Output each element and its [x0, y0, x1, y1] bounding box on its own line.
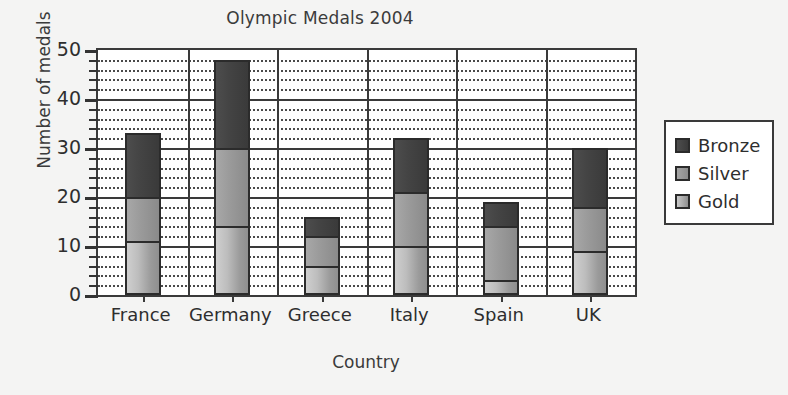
y-tick-minor	[89, 168, 98, 170]
bar-segment-silver[interactable]	[572, 207, 608, 251]
y-tick-minor	[89, 236, 98, 238]
y-tick-minor	[89, 226, 98, 228]
x-tick-mark	[232, 295, 234, 302]
bar-segment-gold[interactable]	[304, 266, 340, 295]
x-tick-mark	[143, 295, 145, 302]
category-separator	[456, 50, 458, 295]
y-tick-minor	[89, 207, 98, 209]
y-tick-minor	[89, 89, 98, 91]
silver-swatch-icon	[675, 166, 690, 181]
y-tick-minor	[89, 177, 98, 179]
x-tick-label-greece: Greece	[288, 304, 352, 325]
y-tick-minor	[89, 128, 98, 130]
x-axis-label: Country	[95, 352, 637, 372]
x-tick-label-germany: Germany	[189, 304, 272, 325]
legend-item-bronze[interactable]: Bronze	[675, 135, 760, 156]
x-tick-label-spain: Spain	[474, 304, 524, 325]
x-tick-label-italy: Italy	[390, 304, 429, 325]
bar-segment-bronze[interactable]	[393, 138, 429, 192]
y-tick-minor	[89, 266, 98, 268]
y-tick-minor	[89, 256, 98, 258]
x-tick-label-uk: UK	[576, 304, 601, 325]
category-separator	[546, 50, 548, 295]
bar-germany[interactable]	[214, 60, 250, 295]
legend-item-silver[interactable]: Silver	[675, 163, 760, 184]
y-tick-minor	[89, 285, 98, 287]
x-tick-label-france: France	[111, 304, 171, 325]
y-tick-minor	[89, 119, 98, 121]
category-separator	[277, 50, 279, 295]
x-tick-mark	[411, 295, 413, 302]
bar-segment-silver[interactable]	[304, 236, 340, 265]
bar-segment-gold[interactable]	[483, 280, 519, 295]
bar-segment-gold[interactable]	[214, 226, 250, 295]
y-tick-major	[85, 197, 98, 200]
y-tick-minor	[89, 187, 98, 189]
bronze-swatch-icon	[675, 138, 690, 153]
chart-canvas: Olympic Medals 2004 Number of medals 010…	[0, 0, 788, 395]
legend: BronzeSilverGold	[664, 120, 774, 225]
y-axis-label: Number of medals	[34, 0, 54, 210]
x-tick-mark	[322, 295, 324, 302]
y-tick-minor	[89, 275, 98, 277]
y-tick-label: 0	[69, 283, 81, 305]
bar-segment-gold[interactable]	[393, 246, 429, 295]
legend-label: Gold	[698, 191, 739, 212]
bar-segment-gold[interactable]	[572, 251, 608, 295]
legend-item-gold[interactable]: Gold	[675, 191, 760, 212]
y-tick-label: 10	[57, 234, 81, 256]
bar-segment-bronze[interactable]	[572, 148, 608, 207]
y-tick-minor	[89, 109, 98, 111]
bar-greece[interactable]	[304, 217, 340, 295]
y-tick-label: 40	[57, 87, 81, 109]
y-tick-minor	[89, 70, 98, 72]
y-tick-major	[85, 50, 98, 53]
bar-uk[interactable]	[572, 148, 608, 295]
y-tick-label: 30	[57, 136, 81, 158]
bar-segment-gold[interactable]	[125, 241, 161, 295]
bar-spain[interactable]	[483, 202, 519, 295]
y-tick-minor	[89, 79, 98, 81]
y-tick-minor	[89, 138, 98, 140]
category-separator	[188, 50, 190, 295]
y-tick-major	[85, 295, 98, 298]
bar-segment-bronze[interactable]	[125, 133, 161, 197]
y-tick-minor	[89, 158, 98, 160]
y-tick-minor	[89, 217, 98, 219]
x-tick-mark	[501, 295, 503, 302]
bar-segment-bronze[interactable]	[483, 202, 519, 227]
gold-swatch-icon	[675, 194, 690, 209]
bar-segment-silver[interactable]	[483, 226, 519, 280]
bar-segment-silver[interactable]	[393, 192, 429, 246]
plot-area: 01020304050	[96, 48, 637, 297]
bar-segment-bronze[interactable]	[304, 217, 340, 237]
y-tick-major	[85, 246, 98, 249]
x-tick-mark	[590, 295, 592, 302]
bar-france[interactable]	[125, 133, 161, 295]
bar-segment-bronze[interactable]	[214, 60, 250, 148]
legend-label: Silver	[698, 163, 749, 184]
bar-segment-silver[interactable]	[214, 148, 250, 226]
chart-title: Olympic Medals 2004	[0, 8, 640, 28]
y-tick-major	[85, 148, 98, 151]
category-separator	[367, 50, 369, 295]
y-tick-label: 20	[57, 185, 81, 207]
bar-segment-silver[interactable]	[125, 197, 161, 241]
y-tick-minor	[89, 60, 98, 62]
bar-italy[interactable]	[393, 138, 429, 295]
y-tick-major	[85, 99, 98, 102]
legend-label: Bronze	[698, 135, 760, 156]
y-tick-label: 50	[57, 38, 81, 60]
